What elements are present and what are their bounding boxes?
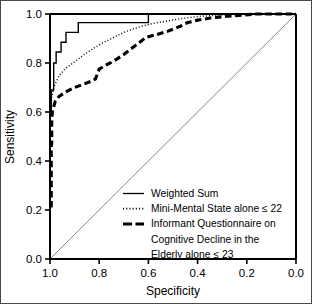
legend-label: Mini-Mental State alone ≤ 22: [151, 203, 282, 214]
legend-label: Cognitive Decline in the: [151, 234, 259, 245]
roc-chart-svg: 1.00.80.60.40.20.0 0.00.20.40.60.81.0 Sp…: [1, 1, 311, 303]
legend-label: Informant Questionnaire on: [151, 218, 276, 229]
legend-label: Weighted Sum: [151, 188, 218, 199]
chart-legend: Weighted SumMini-Mental State alone ≤ 22…: [123, 188, 282, 260]
roc-curve-figure: 1.00.80.60.40.20.0 0.00.20.40.60.81.0 Sp…: [0, 0, 312, 304]
x-tick-label: 1.0: [42, 267, 58, 279]
x-tick-label: 0.2: [239, 267, 255, 279]
y-tick-label: 0.0: [26, 253, 42, 265]
y-tick-label: 1.0: [26, 8, 42, 20]
y-axis-title: Sensitivity: [3, 110, 17, 164]
x-tick-label: 0.8: [91, 267, 107, 279]
x-tick-label: 0.6: [140, 267, 156, 279]
legend-label: Elderly alone ≤ 23: [151, 249, 234, 260]
x-tick-label: 0.0: [288, 267, 304, 279]
y-tick-label: 0.8: [26, 57, 42, 69]
x-axis-title: Specificity: [146, 284, 200, 298]
y-tick-label: 0.2: [26, 204, 42, 216]
y-tick-label: 0.6: [26, 106, 42, 118]
roc-series-3: [51, 14, 296, 208]
x-tick-label: 0.4: [190, 267, 207, 279]
y-axis-tick-labels: 0.00.20.40.60.81.0: [26, 8, 43, 265]
y-tick-label: 0.4: [26, 155, 43, 167]
x-axis-tick-labels: 1.00.80.60.40.20.0: [42, 267, 304, 279]
